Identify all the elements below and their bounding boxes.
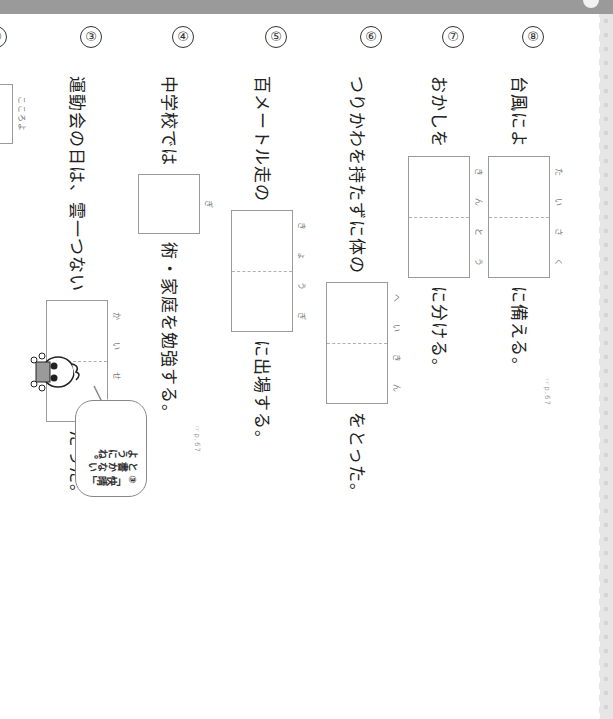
furigana-char: た bbox=[554, 168, 562, 177]
question-4: ④中学校ではぎ術・家庭を勉強する。☞p.67 bbox=[144, 14, 230, 612]
answer-box[interactable]: きょうぎ bbox=[231, 210, 293, 332]
furigana-char: ぎ bbox=[204, 200, 212, 209]
furigana-char: こころよ bbox=[17, 96, 25, 132]
sentence-before: おかしを bbox=[431, 76, 448, 148]
sentence-after: をとった。 bbox=[349, 412, 366, 501]
box-divider bbox=[232, 271, 292, 272]
sentence-before: 台風によ bbox=[511, 76, 528, 148]
question-number: ⑦ bbox=[442, 26, 464, 48]
question-sentence: 百メートル走のきょうぎに出場する。 bbox=[231, 76, 293, 448]
sentence-after: に分ける。 bbox=[431, 286, 448, 376]
furigana-char: ょ bbox=[297, 252, 305, 261]
furigana-char: く bbox=[554, 258, 562, 267]
sentence-before: 百メートル走の bbox=[254, 76, 271, 202]
furigana-char: う bbox=[297, 282, 305, 291]
sentence-after: に出場する。 bbox=[254, 340, 271, 448]
question-number: ⑤ bbox=[265, 26, 287, 48]
question-2: ②こころよくだのみを引き受けてくれた。 bbox=[0, 14, 43, 612]
question-number: ② bbox=[0, 26, 7, 48]
furigana: きんとう bbox=[474, 157, 482, 277]
bubble-line-2: と書かない bbox=[84, 459, 138, 473]
furigana-char: へ bbox=[392, 294, 400, 303]
question-5: ⑤百メートル走のきょうぎに出場する。 bbox=[237, 14, 323, 612]
furigana: きょうぎ bbox=[297, 211, 305, 331]
furigana: へいきん bbox=[392, 283, 400, 403]
answer-box[interactable]: へいきん bbox=[326, 282, 388, 404]
answer-box[interactable]: ぎ bbox=[138, 174, 200, 234]
furigana-char: ん bbox=[392, 384, 400, 393]
furigana-char: せ bbox=[112, 372, 120, 381]
furigana-char: き bbox=[392, 354, 400, 363]
furigana-char: い bbox=[392, 324, 400, 333]
question-number: ④ bbox=[172, 26, 194, 48]
furigana-char: き bbox=[297, 222, 305, 231]
header-bar bbox=[0, 0, 613, 14]
bubble-line-1: ③「快晴」 bbox=[84, 473, 138, 487]
furigana-char: か bbox=[112, 312, 120, 321]
furigana-char: い bbox=[554, 198, 562, 207]
furigana-char: ぎ bbox=[297, 312, 305, 321]
box-divider bbox=[409, 217, 469, 218]
furigana-char: き bbox=[474, 168, 482, 177]
furigana-char: い bbox=[112, 342, 120, 351]
page-reference: ☞p.67 bbox=[543, 379, 550, 406]
question-6: ⑥つりかわを持たずに体のへいきんをとった。 bbox=[332, 14, 418, 612]
furigana: ぎ bbox=[204, 175, 212, 233]
page-edge-decoration bbox=[599, 14, 613, 719]
question-7: ⑦おかしをきんとうに分ける。 bbox=[414, 14, 500, 612]
speech-bubble-text: ③「快晴」 と書かない ようにね。 bbox=[76, 401, 146, 496]
question-number: ⑧ bbox=[522, 26, 544, 48]
furigana-char: さ bbox=[554, 228, 562, 237]
question-sentence: こころよくだのみを引き受けてくれた。 bbox=[0, 76, 13, 403]
worksheet: ⑧台風によたいさくに備える。☞p.67⑦おかしをきんとうに分ける。⑥つりかわを持… bbox=[0, 14, 598, 719]
furigana: こころよ bbox=[17, 85, 25, 143]
sentence-after: 術・家庭を勉強する。 bbox=[161, 242, 178, 422]
question-3: ③運動会の日は、雲一つないかいせいだった。 bbox=[52, 14, 138, 612]
question-sentence: 中学校ではぎ術・家庭を勉強する。☞p.67 bbox=[138, 76, 200, 453]
furigana: たいさく bbox=[554, 157, 562, 277]
sentence-before: つりかわを持たずに体の bbox=[349, 76, 366, 274]
furigana-char: ん bbox=[474, 198, 482, 207]
answer-box[interactable]: こころよ bbox=[0, 84, 13, 144]
bubble-line-3: ようにね。 bbox=[84, 446, 138, 460]
speech-bubble: ③「快晴」 と書かない ようにね。 bbox=[75, 400, 147, 497]
question-number: ⑥ bbox=[360, 26, 382, 48]
box-divider bbox=[327, 343, 387, 344]
furigana-char: う bbox=[474, 258, 482, 267]
question-sentence: つりかわを持たずに体のへいきんをとった。 bbox=[326, 76, 388, 501]
question-8: ⑧台風によたいさくに備える。☞p.67 bbox=[494, 14, 580, 612]
mascot-icon bbox=[28, 350, 80, 394]
furigana-char: と bbox=[474, 228, 482, 237]
question-number: ③ bbox=[80, 26, 102, 48]
sentence-before: 運動会の日は、雲一つない bbox=[69, 76, 86, 292]
sentence-before: 中学校では bbox=[161, 76, 178, 166]
sentence-after: に備える。 bbox=[511, 286, 528, 375]
page-reference: ☞p.67 bbox=[193, 426, 200, 453]
